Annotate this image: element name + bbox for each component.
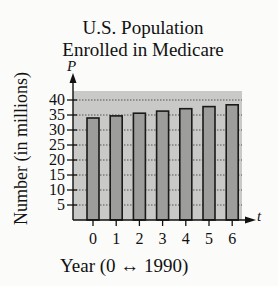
bar — [226, 105, 238, 220]
y-tick-label: 35 — [49, 106, 65, 123]
y-tick-label: 20 — [49, 151, 65, 168]
x-tick-label: 6 — [228, 230, 236, 247]
y-tick-label: 25 — [49, 136, 65, 153]
x-tick-label: 3 — [159, 230, 167, 247]
y-axis-arrow-icon — [70, 73, 77, 83]
y-tick-label: 30 — [49, 121, 65, 138]
bar — [203, 107, 215, 220]
bar — [133, 113, 145, 220]
bar — [110, 116, 122, 220]
bar — [87, 118, 99, 220]
x-tick-label: 4 — [182, 230, 190, 247]
y-tick-label: 40 — [49, 91, 65, 108]
x-axis-arrow-icon — [245, 217, 256, 224]
bar — [180, 109, 192, 220]
y-tick-label: 10 — [49, 181, 65, 198]
y-tick-label: 15 — [49, 166, 65, 183]
x-tick-label: 1 — [112, 230, 120, 247]
bar-chart-plot: 5101520253035400123456 — [0, 0, 278, 286]
bar — [157, 111, 169, 220]
x-tick-label: 2 — [135, 230, 143, 247]
y-tick-label: 5 — [57, 196, 65, 213]
x-tick-label: 5 — [205, 230, 213, 247]
x-tick-label: 0 — [89, 230, 97, 247]
